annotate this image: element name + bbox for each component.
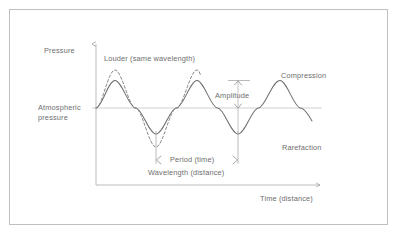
louder-wave-label: Louder (same wavelength) xyxy=(104,54,195,64)
wavelength-label: Wavelength (distance) xyxy=(148,168,224,178)
wave-dashed-louder xyxy=(96,70,201,147)
x-axis-label-time: Time (distance) xyxy=(260,194,313,204)
atmospheric-pressure-label: Atmospheric pressure xyxy=(38,103,94,123)
period-label: Period (time) xyxy=(170,155,214,165)
y-axis-label-pressure: Pressure xyxy=(44,46,75,56)
figure-root: Pressure Atmospheric pressure Louder (sa… xyxy=(0,0,400,243)
period-arrow-right-head xyxy=(233,156,238,164)
wave-solid xyxy=(96,81,312,135)
rarefaction-label: Rarefaction xyxy=(282,143,321,153)
compression-label: Compression xyxy=(281,71,326,81)
amplitude-label: Amplitude xyxy=(215,91,249,101)
period-arrow-left-head xyxy=(157,156,162,164)
